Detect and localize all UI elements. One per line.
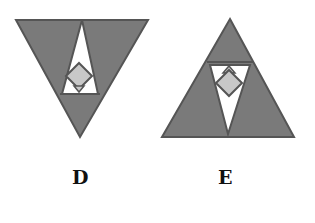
figure-d [16, 20, 148, 137]
figure-e [162, 19, 294, 137]
figures-canvas [0, 0, 315, 223]
figure-d-label: D [72, 166, 88, 188]
figure-e-label: E [218, 166, 232, 188]
